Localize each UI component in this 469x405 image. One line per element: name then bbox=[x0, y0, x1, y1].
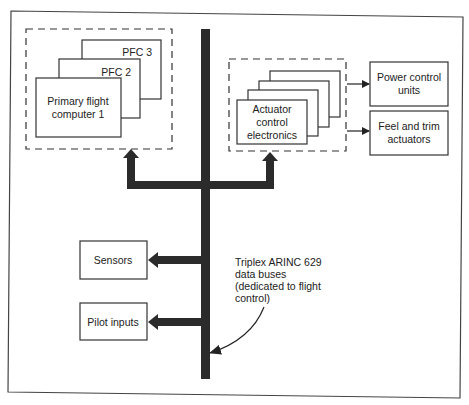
bus-arrowhead-sensors bbox=[148, 252, 158, 268]
power-control-units-line1: Power control bbox=[377, 71, 441, 83]
pilot-inputs-box: Pilot inputs bbox=[80, 303, 147, 340]
bus-branch-ace-vertical bbox=[266, 160, 274, 189]
bus-branch-pfc-vertical bbox=[127, 157, 135, 189]
pfc-1-card: Primary flight computer 1 bbox=[36, 78, 121, 137]
pfc-3-label: PFC 3 bbox=[122, 46, 152, 58]
flight-control-diagram: PFC 3 PFC 2 Primary flight computer 1 Ac… bbox=[0, 0, 469, 405]
ace-label-line3: electronics bbox=[247, 129, 297, 141]
annotation-line4: control) bbox=[235, 292, 270, 304]
feel-trim-actuators-line2: actuators bbox=[387, 133, 430, 145]
feel-trim-actuators-line1: Feel and trim bbox=[378, 120, 440, 132]
power-control-units-line2: units bbox=[398, 84, 420, 96]
bus-arrowhead-pilot-inputs bbox=[148, 314, 158, 330]
annotation-line3: (dedicated to flight bbox=[235, 280, 321, 292]
bus-trunk bbox=[201, 29, 210, 379]
ace-label-line2: control bbox=[256, 116, 288, 128]
sensors-label: Sensors bbox=[94, 254, 133, 266]
pfc-1-label-line2: computer 1 bbox=[52, 108, 105, 120]
power-control-units-box: Power control units bbox=[370, 62, 448, 106]
ace-label-line1: Actuator bbox=[252, 103, 292, 115]
sensors-box: Sensors bbox=[80, 241, 147, 279]
pfc-1-label-line1: Primary flight bbox=[47, 95, 108, 107]
bus-arrowhead-ace bbox=[262, 152, 278, 161]
annotation-line2: data buses bbox=[235, 268, 286, 280]
ace-group: Actuator control electronics bbox=[229, 59, 346, 151]
pfc-2-label: PFC 2 bbox=[101, 66, 131, 78]
bus-branch-sensors bbox=[157, 256, 202, 264]
bus-branch-pilot-inputs bbox=[157, 318, 202, 326]
bus-annotation: Triplex ARINC 629 data buses (dedicated … bbox=[210, 256, 322, 353]
annotation-line1: Triplex ARINC 629 bbox=[235, 256, 322, 268]
feel-trim-actuators-box: Feel and trim actuators bbox=[370, 111, 448, 155]
bus-arrowhead-pfc bbox=[123, 149, 139, 158]
pilot-inputs-label: Pilot inputs bbox=[87, 316, 138, 328]
ace-card-1: Actuator control electronics bbox=[237, 100, 307, 144]
bus-branch-horizontal bbox=[127, 181, 274, 189]
annotation-curved-arrow bbox=[210, 307, 264, 353]
pfc-group: PFC 3 PFC 2 Primary flight computer 1 bbox=[26, 29, 172, 149]
